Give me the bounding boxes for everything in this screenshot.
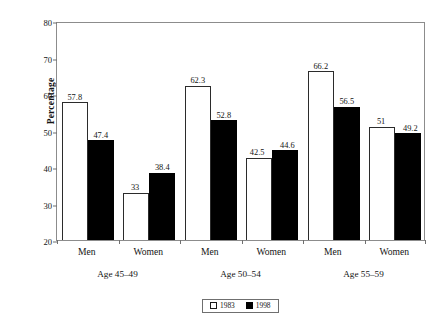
category-label-2: Men: [180, 246, 240, 257]
category-label-4: Men: [303, 246, 363, 257]
bar-women-1998[interactable]: 49.2: [395, 133, 421, 240]
x-tick-mark: [365, 240, 366, 244]
y-tick-mark: [53, 132, 57, 133]
bar-value-label: 42.5: [250, 149, 265, 157]
legend-label-1998: 1998: [256, 302, 271, 309]
bar-value-label: 62.3: [190, 77, 205, 85]
bar-men-1983[interactable]: 66.2: [308, 71, 334, 240]
bar-value-label: 57.8: [67, 94, 82, 102]
bar-value-label: 49.2: [403, 125, 418, 133]
bar-women-1998[interactable]: 44.6: [272, 150, 298, 240]
bar-value-label: 66.2: [313, 63, 328, 71]
bar-women-1983[interactable]: 42.5: [246, 158, 272, 240]
bar-women-1983[interactable]: 51: [369, 127, 395, 240]
category-label-0: Men: [57, 246, 117, 257]
bar-men-1998[interactable]: 56.5: [334, 107, 360, 240]
y-tick-mark: [53, 23, 57, 24]
x-tick-mark: [242, 240, 243, 244]
bar-value-label: 56.5: [339, 98, 354, 106]
group-label-age-55-59: Age 55–59: [319, 269, 409, 279]
bar-chart: Percentage 2030405060708057.847.43338.46…: [0, 0, 444, 326]
bar-men-1998[interactable]: 47.4: [88, 140, 114, 240]
y-tick-mark: [53, 169, 57, 170]
bar-value-label: 38.4: [155, 164, 170, 172]
group-label-age-45-49: Age 45–49: [73, 269, 163, 279]
open-square-swatch-icon: [210, 302, 217, 309]
y-tick-mark: [53, 59, 57, 60]
x-tick-mark: [119, 240, 120, 244]
legend-label-1983: 1983: [220, 302, 235, 309]
category-label-1: Women: [118, 246, 178, 257]
bar-value-label: 47.4: [93, 132, 108, 140]
group-label-age-50-54: Age 50–54: [196, 269, 286, 279]
bar-men-1983[interactable]: 62.3: [185, 86, 211, 240]
bar-women-1998[interactable]: 38.4: [149, 173, 175, 240]
y-tick-mark: [53, 96, 57, 97]
plot-area: 2030405060708057.847.43338.462.352.842.5…: [56, 22, 425, 241]
bar-value-label: 52.8: [216, 112, 231, 120]
bar-value-label: 51: [377, 118, 385, 126]
x-tick-mark: [425, 240, 426, 244]
filled-square-swatch-icon: [246, 302, 253, 309]
bar-value-label: 44.6: [280, 142, 295, 150]
legend-item-1983[interactable]: 1983: [210, 302, 235, 309]
legend-item-1998[interactable]: 1998: [246, 302, 271, 309]
bar-men-1983[interactable]: 57.8: [62, 102, 88, 240]
x-tick-mark: [57, 240, 58, 244]
category-label-3: Women: [241, 246, 301, 257]
x-tick-mark: [303, 240, 304, 244]
x-tick-mark: [180, 240, 181, 244]
y-tick-mark: [53, 205, 57, 206]
chart-legend: 1983 1998: [202, 299, 279, 313]
category-label-5: Women: [364, 246, 424, 257]
bar-women-1983[interactable]: 33: [123, 193, 149, 240]
bar-value-label: 33: [131, 184, 139, 192]
bar-men-1998[interactable]: 52.8: [211, 120, 237, 240]
